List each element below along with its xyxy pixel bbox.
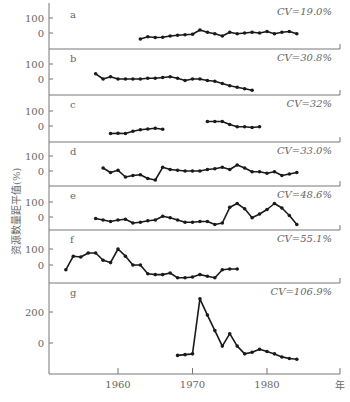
data-point	[116, 218, 120, 222]
data-point	[146, 177, 150, 181]
data-point	[116, 168, 120, 172]
data-point	[72, 254, 76, 258]
data-point	[116, 77, 120, 81]
data-point	[258, 125, 262, 129]
data-point	[176, 168, 180, 172]
y-tick-label: 100	[25, 151, 44, 162]
y-tick-label: 100	[25, 59, 44, 70]
data-point	[221, 34, 225, 38]
data-point	[288, 214, 292, 218]
data-point	[176, 76, 180, 80]
data-point	[206, 120, 210, 124]
y-tick-label: 100	[25, 244, 44, 255]
data-point	[288, 172, 292, 176]
data-point	[191, 275, 195, 279]
data-point	[228, 267, 232, 271]
data-point	[109, 132, 113, 136]
data-point	[191, 169, 195, 173]
data-point	[235, 163, 239, 167]
data-point	[153, 218, 157, 222]
data-point	[250, 351, 254, 355]
panel-letter: g	[70, 287, 77, 298]
y-tick-label: 0	[38, 74, 44, 85]
data-point	[228, 205, 232, 209]
series-line	[66, 249, 237, 278]
data-point	[206, 274, 210, 278]
data-point	[168, 34, 172, 38]
data-point	[109, 261, 113, 265]
data-point	[295, 171, 299, 175]
data-point	[228, 123, 232, 127]
data-point	[228, 332, 232, 336]
panel-letter: f	[70, 234, 75, 245]
data-point	[235, 202, 239, 206]
panel-letter: a	[70, 9, 76, 20]
data-point	[235, 85, 239, 89]
data-point	[176, 276, 180, 280]
panel-letter: c	[70, 99, 76, 110]
data-point	[183, 169, 187, 173]
data-point	[183, 220, 187, 224]
data-point	[191, 32, 195, 36]
data-point	[243, 352, 247, 356]
data-point	[273, 352, 277, 356]
data-point	[168, 168, 172, 172]
data-point	[153, 76, 157, 80]
data-point	[295, 223, 299, 227]
data-point	[131, 129, 135, 133]
data-point	[191, 352, 195, 356]
data-point	[228, 168, 232, 172]
data-point	[265, 30, 269, 34]
data-point	[221, 344, 225, 348]
data-point	[109, 75, 113, 79]
cv-label: CV=19.0%	[277, 6, 332, 17]
data-point	[139, 173, 143, 177]
data-point	[228, 84, 232, 88]
data-point	[124, 132, 128, 136]
data-point	[168, 271, 172, 275]
data-point	[213, 329, 217, 333]
data-point	[124, 217, 128, 221]
data-point	[250, 30, 254, 34]
data-point	[161, 214, 165, 218]
data-point	[258, 212, 262, 216]
data-point	[213, 167, 217, 171]
cv-label: CV=106.9%	[271, 286, 332, 297]
y-tick-label: 200	[25, 307, 44, 318]
data-point	[131, 174, 135, 178]
data-point	[213, 223, 217, 227]
panel-letter: b	[70, 53, 76, 64]
data-point	[235, 344, 239, 348]
data-point	[161, 128, 165, 132]
data-point	[198, 273, 202, 277]
data-point	[131, 77, 135, 81]
data-point	[235, 267, 239, 271]
panel-a: 0100aCV=19.0%	[25, 6, 340, 49]
data-point	[191, 77, 195, 81]
data-point	[228, 30, 232, 34]
data-point	[139, 128, 143, 132]
chart-canvas: 0100aCV=19.0%0100bCV=30.8%0100cCV=32%010…	[0, 0, 350, 402]
data-point	[221, 120, 225, 124]
data-point	[146, 219, 150, 223]
data-point	[273, 202, 277, 206]
y-axis-title: 资源数量距平值(%)	[10, 168, 22, 255]
panel-letter: d	[70, 146, 77, 157]
data-point	[250, 88, 254, 92]
data-point	[206, 313, 210, 317]
data-point	[139, 37, 143, 41]
data-point	[206, 168, 210, 172]
data-point	[198, 220, 202, 224]
data-point	[131, 221, 135, 225]
data-point	[273, 170, 277, 174]
data-point	[176, 33, 180, 37]
data-point	[250, 170, 254, 174]
panel-d: 0100dCV=33.0%	[25, 145, 340, 186]
data-point	[101, 258, 105, 262]
data-point	[139, 77, 143, 81]
cv-label: CV=30.8%	[277, 52, 332, 63]
data-point	[183, 79, 187, 83]
data-point	[198, 28, 202, 32]
cv-label: CV=48.6%	[277, 189, 332, 200]
data-point	[280, 355, 284, 359]
